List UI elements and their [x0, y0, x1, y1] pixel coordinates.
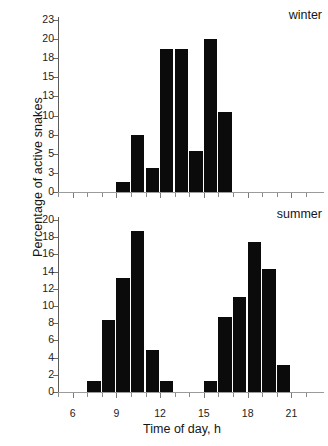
y-tick-label: 15 — [42, 70, 54, 83]
panel-winter: winter 0358101315182023 — [0, 0, 328, 205]
bar — [204, 381, 217, 392]
x-tick-summer-20 — [277, 393, 278, 397]
bar — [218, 112, 231, 192]
bar — [131, 231, 144, 392]
bar — [160, 381, 173, 392]
x-tick-summer-9 — [116, 393, 117, 398]
x-axis-title: Time of day, h — [58, 422, 306, 436]
y-tick-label: 0 — [48, 185, 54, 198]
y-tick-label: 2 — [48, 368, 54, 381]
x-tick-winter-22 — [306, 193, 307, 197]
y-tick-label: 23 — [42, 13, 54, 26]
bar — [233, 297, 246, 392]
x-tick-summer-11 — [146, 393, 147, 397]
x-tick-summer-13 — [175, 393, 176, 397]
panel-summer: summer 02468101214161820 — [0, 205, 328, 405]
y-tick-label: 12 — [42, 282, 54, 295]
bar — [189, 151, 202, 192]
x-tick-winter-17 — [233, 193, 234, 197]
x-tick-summer-14 — [189, 393, 190, 397]
bar — [146, 168, 159, 192]
x-tick-summer-7 — [87, 393, 88, 397]
bar — [218, 317, 231, 392]
x-axis-line-summer — [58, 392, 324, 393]
x-tick-winter-10 — [131, 193, 132, 197]
y-tick-label: 10 — [42, 299, 54, 312]
y-tick-label: 18 — [42, 230, 54, 243]
x-tick-summer-12 — [160, 393, 161, 398]
x-tick-winter-21 — [291, 193, 292, 198]
x-tick-winter-16 — [218, 193, 219, 197]
y-tick-label: 8 — [48, 316, 54, 329]
plot-area-winter: 0358101315182023 — [58, 17, 306, 193]
x-tick-label-15: 15 — [198, 407, 210, 420]
bar — [248, 242, 261, 392]
x-tick-label-row: 6912151821 — [58, 401, 306, 415]
x-tick-winter-6 — [73, 193, 74, 198]
bar — [160, 49, 173, 192]
y-axis-line-winter — [58, 17, 59, 193]
x-axis-line-winter — [58, 192, 324, 193]
x-tick-summer-15 — [204, 393, 205, 398]
y-tick-label: 18 — [42, 51, 54, 64]
y-tick-label: 4 — [48, 351, 54, 364]
x-tick-summer-18 — [248, 393, 249, 398]
x-tick-winter-13 — [175, 193, 176, 197]
x-tick-winter-19 — [262, 193, 263, 197]
x-tick-summer-8 — [102, 393, 103, 397]
x-tick-winter-8 — [102, 193, 103, 197]
y-tick-label: 13 — [42, 89, 54, 102]
x-tick-label-9: 9 — [113, 407, 119, 420]
x-tick-winter-20 — [277, 193, 278, 197]
bar — [146, 350, 159, 392]
x-tick-label-12: 12 — [154, 407, 166, 420]
bar — [116, 278, 129, 392]
x-tick-summer-17 — [233, 393, 234, 397]
x-tick-winter-14 — [189, 193, 190, 197]
bar — [262, 269, 275, 392]
bar — [175, 49, 188, 192]
x-tick-label-18: 18 — [242, 407, 254, 420]
bar — [87, 381, 100, 392]
y-tick-label: 0 — [48, 385, 54, 398]
y-tick-label: 3 — [48, 166, 54, 179]
figure: Percentage of active snakes winter 03581… — [0, 0, 328, 446]
x-tick-winter-15 — [204, 193, 205, 198]
bar — [131, 135, 144, 192]
x-tick-summer-16 — [218, 393, 219, 397]
y-tick-label: 10 — [42, 109, 54, 122]
x-tick-summer-19 — [262, 393, 263, 397]
x-tick-winter-5 — [58, 193, 59, 197]
y-tick-label: 20 — [42, 32, 54, 45]
y-tick-label: 8 — [48, 128, 54, 141]
bar — [102, 320, 115, 392]
x-tick-winter-9 — [116, 193, 117, 198]
bar — [116, 182, 129, 192]
x-tick-summer-10 — [131, 393, 132, 397]
x-tick-winter-11 — [146, 193, 147, 197]
x-tick-summer-6 — [73, 393, 74, 398]
x-tick-winter-7 — [87, 193, 88, 197]
bar — [204, 39, 217, 192]
x-tick-winter-18 — [248, 193, 249, 198]
x-tick-summer-22 — [306, 393, 307, 397]
y-axis-line-summer — [58, 217, 59, 393]
x-tick-label-6: 6 — [70, 407, 76, 420]
x-tick-winter-12 — [160, 193, 161, 198]
x-tick-summer-5 — [58, 393, 59, 397]
y-tick-label: 16 — [42, 247, 54, 260]
x-tick-summer-21 — [291, 393, 292, 398]
bar — [277, 365, 290, 392]
y-tick-label: 5 — [48, 147, 54, 160]
y-tick-label: 20 — [42, 213, 54, 226]
y-tick-label: 6 — [48, 333, 54, 346]
y-tick-label: 14 — [42, 265, 54, 278]
plot-area-summer: 02468101214161820 — [58, 217, 306, 393]
x-tick-label-21: 21 — [286, 407, 298, 420]
